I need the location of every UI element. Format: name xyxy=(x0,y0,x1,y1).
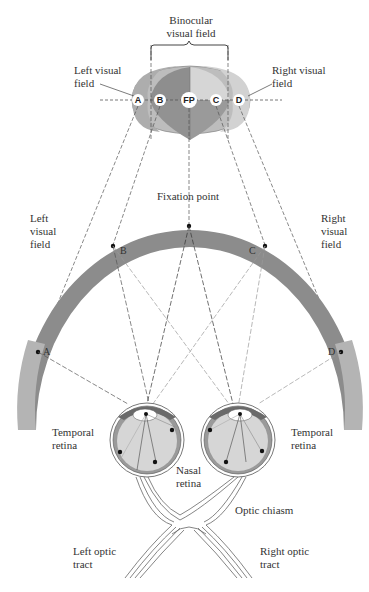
field-point-b: B xyxy=(157,95,164,105)
label-right-visual-field-top: Right visual field xyxy=(272,64,325,90)
label-temporal-retina-left: Temporal retina xyxy=(52,426,94,452)
label-right-optic-tract: Right optic tract xyxy=(260,545,309,571)
binocular-bracket xyxy=(151,41,228,60)
label-nasal-retina: Nasal retina xyxy=(176,464,201,490)
label-right-visual-field: Right visual field xyxy=(321,212,347,251)
field-point-c: C xyxy=(213,95,220,105)
label-binocular-visual-field: Binocular visual field xyxy=(160,14,222,40)
label-fixation-point: Fixation point xyxy=(157,190,219,203)
projection-lines-eyes xyxy=(38,226,341,408)
visual-field-arc xyxy=(17,230,363,430)
left-eye xyxy=(110,403,184,477)
label-left-visual-field-top: Left visual field xyxy=(74,64,121,90)
label-optic-chiasm: Optic chiasm xyxy=(235,504,293,517)
label-left-visual-field: Left visual field xyxy=(30,212,56,251)
arc-point-d: D xyxy=(328,346,335,357)
arc-point-c: C xyxy=(249,245,256,256)
label-temporal-retina-right: Temporal retina xyxy=(291,426,333,452)
field-point-d: D xyxy=(236,95,243,105)
right-eye xyxy=(201,403,275,477)
arc-point-b: B xyxy=(120,245,127,256)
field-point-fp: FP xyxy=(183,95,195,105)
field-point-a: A xyxy=(135,95,142,105)
label-left-optic-tract: Left optic tract xyxy=(73,545,116,571)
optic-nerves-chiasm xyxy=(125,477,252,578)
